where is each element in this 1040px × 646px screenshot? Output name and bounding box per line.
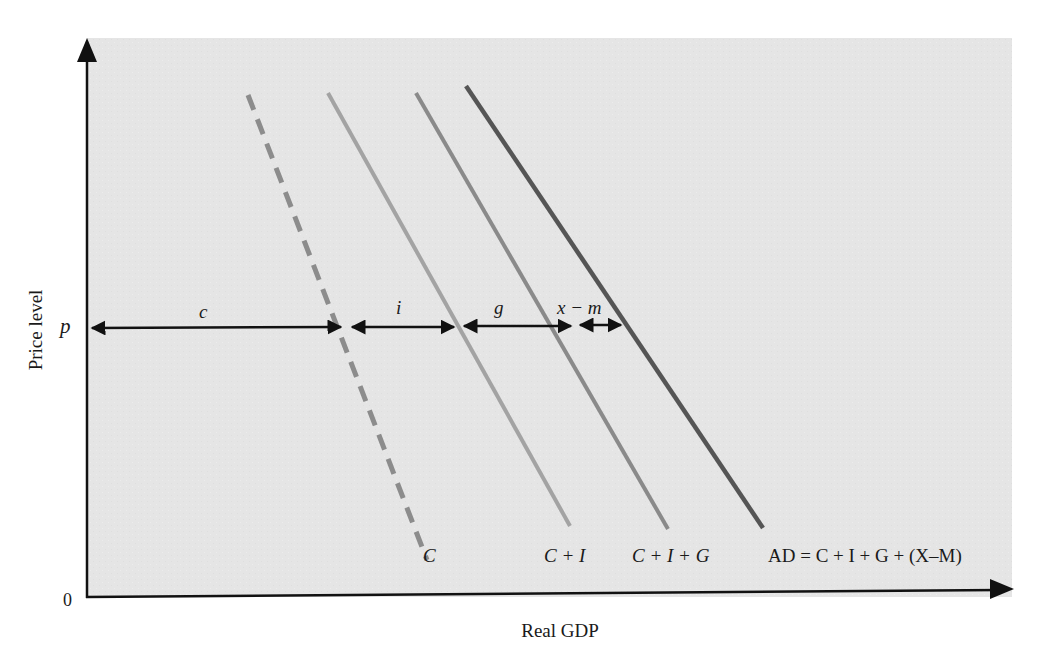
arrow-c: [92, 327, 341, 328]
legend-c: C: [423, 545, 436, 566]
legend-c-plus-i: C + I: [544, 545, 587, 566]
price-marker-p: p: [58, 314, 71, 338]
x-axis-title: Real GDP: [521, 620, 599, 641]
origin-label: 0: [63, 590, 72, 610]
label-i-component: i: [396, 297, 401, 318]
y-axis-title: Price level: [25, 290, 46, 371]
legend-ad: AD = C + I + G + (X–M): [768, 545, 962, 567]
legend-c-plus-i-plus-g: C + I + G: [632, 545, 710, 566]
label-g-component: g: [494, 297, 504, 318]
label-x-minus-m-component: x − m: [556, 297, 601, 318]
aggregate-demand-chart: c i g x − m p C C + I C + I + G AD = C +…: [0, 0, 1040, 646]
label-c-component: c: [199, 301, 208, 322]
plot-area: [87, 38, 1012, 597]
